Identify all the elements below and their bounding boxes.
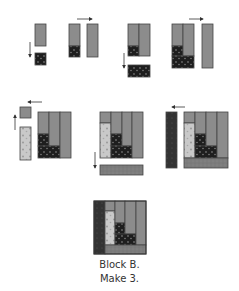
dark-strip <box>115 234 136 245</box>
gray-long-strip <box>136 201 146 245</box>
charcoal-strip <box>166 112 177 168</box>
gray-unit <box>195 112 206 134</box>
dark-strip <box>38 146 60 158</box>
gray-square <box>105 201 115 211</box>
mottled-bottom-strip <box>184 158 228 168</box>
light-floral-strip <box>20 127 31 160</box>
step-5 <box>15 102 71 160</box>
gray-strip <box>35 24 46 46</box>
gray-unit <box>115 201 125 223</box>
gray-strip <box>125 201 136 234</box>
gray-square <box>184 112 195 123</box>
gray-strip <box>87 24 98 57</box>
gray-strip <box>206 112 217 146</box>
dark-strip <box>128 65 150 77</box>
dark-square <box>35 53 46 65</box>
gray-unit <box>111 112 122 134</box>
gray-long-strip <box>132 112 143 158</box>
gray-square <box>20 107 31 118</box>
assembly-diagram <box>0 0 239 291</box>
dark-unit <box>111 134 122 146</box>
step-6 <box>95 112 143 175</box>
final-block <box>94 201 146 254</box>
gray-strip <box>183 24 194 56</box>
dark-unit-bottom <box>69 46 80 57</box>
dark-strip <box>195 146 217 158</box>
dark-strip <box>172 56 194 68</box>
charcoal-strip <box>94 201 105 254</box>
gray-unit <box>38 112 49 134</box>
dark-unit <box>195 134 206 146</box>
gray-strip <box>49 112 60 146</box>
gray-long-strip <box>217 112 228 158</box>
dark-unit <box>38 134 49 146</box>
gray-long-strip <box>60 112 71 158</box>
step-3 <box>124 24 150 77</box>
gray-unit-top <box>69 24 80 46</box>
step-1 <box>30 24 46 65</box>
mottled-bottom-strip <box>100 165 143 175</box>
dark-unit <box>128 46 139 56</box>
caption-block-name: Block B. <box>0 258 239 272</box>
gray-strip <box>139 24 150 56</box>
gray-long-strip <box>202 24 213 68</box>
mottled-bottom-strip <box>105 245 146 254</box>
caption-make-count: Make 3. <box>0 272 239 286</box>
dark-unit <box>172 46 183 56</box>
gray-unit <box>128 24 139 46</box>
light-floral-strip <box>105 211 115 245</box>
light-floral-strip <box>184 123 195 158</box>
step-7 <box>166 107 228 168</box>
dark-unit <box>115 223 125 234</box>
gray-unit <box>172 24 183 46</box>
step-4 <box>172 19 213 68</box>
light-floral-strip <box>100 123 111 158</box>
dark-strip <box>111 146 132 158</box>
step-2 <box>69 19 98 57</box>
gray-square <box>100 112 111 123</box>
gray-strip <box>122 112 132 146</box>
